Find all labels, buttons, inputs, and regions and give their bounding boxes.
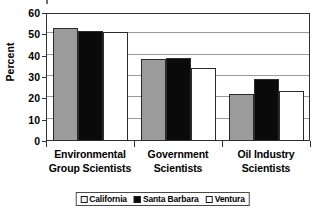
legend-label: Ventura: [215, 194, 245, 204]
legend-swatch-icon: [206, 196, 213, 203]
bar-group: [46, 13, 134, 141]
category-label-line: Group Scientists: [46, 162, 134, 176]
y-tick-label: 30: [0, 71, 40, 83]
bar-group-bars: [222, 13, 310, 141]
chart-legend: CaliforniaSanta BarbaraVentura: [75, 192, 250, 206]
x-tick-mark: [310, 141, 311, 147]
top-edge-artifact: [46, 0, 48, 4]
bar-chart: Percent 0102030405060 EnvironmentalGroup…: [0, 0, 325, 212]
bar[interactable]: [229, 94, 254, 141]
bar[interactable]: [166, 58, 191, 141]
category-label-line: Government: [134, 148, 222, 162]
bar-groups: [46, 13, 310, 141]
legend-item[interactable]: Santa Barbara: [134, 194, 199, 204]
category-label-line: Oil Industry: [222, 148, 310, 162]
y-tick-label: 10: [0, 114, 40, 126]
category-label-line: Scientists: [134, 162, 222, 176]
y-tick-label: 40: [0, 50, 40, 62]
bar[interactable]: [53, 28, 78, 141]
legend-label: Santa Barbara: [143, 194, 199, 204]
legend-item[interactable]: California: [80, 194, 127, 204]
legend-swatch-icon: [134, 196, 141, 203]
y-tick-label: 0: [0, 135, 40, 147]
bar[interactable]: [254, 79, 279, 141]
bar[interactable]: [103, 32, 128, 141]
bar-group-bars: [134, 13, 222, 141]
legend-item[interactable]: Ventura: [206, 194, 245, 204]
category-label-line: Environmental: [46, 148, 134, 162]
y-tick-label: 50: [0, 28, 40, 40]
bar[interactable]: [141, 59, 166, 141]
bar-group-bars: [46, 13, 134, 141]
bar[interactable]: [279, 91, 304, 141]
y-tick-label: 60: [0, 7, 40, 19]
bar[interactable]: [78, 31, 103, 141]
x-tick-mark: [134, 141, 135, 147]
x-tick-mark: [46, 141, 47, 147]
category-label-line: Scientists: [222, 162, 310, 176]
bar[interactable]: [191, 68, 216, 141]
category-label: Oil IndustryScientists: [222, 148, 310, 175]
y-tick-label: 20: [0, 92, 40, 104]
category-label: GovernmentScientists: [134, 148, 222, 175]
x-tick-mark: [222, 141, 223, 147]
bar-group: [134, 13, 222, 141]
legend-label: California: [89, 194, 127, 204]
legend-swatch-icon: [80, 196, 87, 203]
bar-group: [222, 13, 310, 141]
category-labels: EnvironmentalGroup ScientistsGovernmentS…: [46, 148, 310, 175]
category-label: EnvironmentalGroup Scientists: [46, 148, 134, 175]
